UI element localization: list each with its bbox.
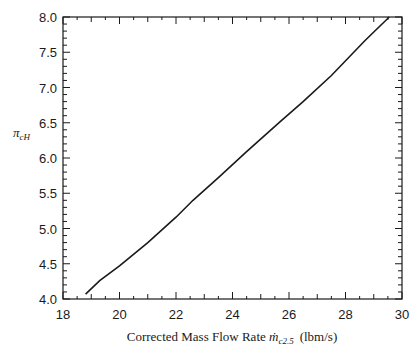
- x-tick-label: 28: [338, 307, 352, 322]
- y-tick-label: 4.5: [39, 257, 57, 272]
- y-tick-label: 6.0: [39, 151, 57, 166]
- x-tick-label: 20: [112, 307, 126, 322]
- x-tick-label: 18: [56, 307, 70, 322]
- y-tick-label: 6.5: [39, 116, 57, 131]
- x-tick-label: 26: [282, 307, 296, 322]
- y-tick-label: 4.0: [39, 292, 57, 307]
- x-tick-label: 22: [169, 307, 183, 322]
- x-axis-label: Corrected Mass Flow Rate ṁc2.5(lbm/s): [127, 329, 337, 346]
- y-tick-label: 7.0: [39, 81, 57, 96]
- axis-ticks: [63, 17, 402, 299]
- y-tick-label: 5.0: [39, 222, 57, 237]
- y-tick-label: 8.0: [39, 10, 57, 25]
- x-tick-labels: 18202224262830: [56, 307, 409, 322]
- y-tick-label: 5.5: [39, 186, 57, 201]
- chart: 18202224262830 4.04.55.05.56.06.57.07.58…: [0, 0, 419, 356]
- plot-frame: [63, 17, 402, 299]
- data-line: [86, 17, 390, 294]
- y-tick-label: 7.5: [39, 45, 57, 60]
- x-tick-label: 24: [225, 307, 239, 322]
- y-tick-labels: 4.04.55.05.56.06.57.07.58.0: [39, 10, 57, 307]
- y-axis-label: πcH: [13, 125, 31, 142]
- x-tick-label: 30: [395, 307, 409, 322]
